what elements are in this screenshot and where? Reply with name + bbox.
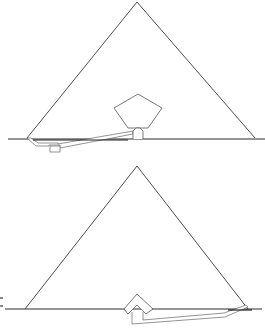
bottom-burial-chamber bbox=[124, 294, 153, 314]
side-mark-1 bbox=[0, 297, 3, 299]
bottom-pyramid-outline bbox=[25, 166, 248, 309]
top-burial-chamber bbox=[114, 94, 162, 128]
pyramid-cross-sections-diagram bbox=[0, 0, 265, 328]
side-marks bbox=[0, 297, 3, 307]
side-mark-2 bbox=[0, 305, 3, 307]
top-pyramid bbox=[8, 2, 265, 152]
bottom-pyramid bbox=[5, 166, 262, 324]
top-antechamber bbox=[133, 128, 143, 139]
top-passage-niche bbox=[50, 146, 60, 152]
